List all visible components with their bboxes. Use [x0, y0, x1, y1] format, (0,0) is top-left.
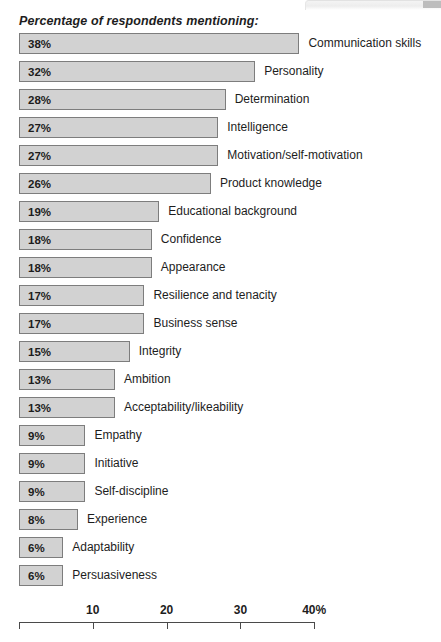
- bar-row: 6%Adaptability: [0, 537, 440, 565]
- bar-value-label: 18%: [28, 262, 51, 274]
- bar-row: 32%Personality: [0, 61, 440, 89]
- bar-row: 18%Confidence: [0, 229, 440, 257]
- bar-category-label: Adaptability: [72, 537, 134, 558]
- bar-row: 18%Appearance: [0, 257, 440, 285]
- bar-row: 26%Product knowledge: [0, 173, 440, 201]
- bar-value-label: 6%: [28, 542, 45, 554]
- bar-category-label: Integrity: [139, 341, 182, 362]
- bar-category-label: Determination: [235, 89, 310, 110]
- bar-value-label: 9%: [28, 430, 45, 442]
- bar: 9%: [19, 425, 85, 446]
- bar-value-label: 18%: [28, 234, 51, 246]
- bar-value-label: 9%: [28, 458, 45, 470]
- bar-category-label: Initiative: [94, 453, 138, 474]
- bar-category-label: Confidence: [161, 229, 222, 250]
- bar-category-label: Self-discipline: [94, 481, 168, 502]
- bar-category-label: Empathy: [94, 425, 141, 446]
- bar-category-label: Experience: [87, 509, 147, 530]
- bar: 13%: [19, 369, 115, 390]
- bar-category-label: Personality: [264, 61, 323, 82]
- x-axis-tick: [93, 622, 94, 629]
- chart-plot-area: 38%Communication skills32%Personality28%…: [0, 33, 440, 593]
- x-axis-tick-label: 10: [86, 603, 99, 617]
- bar-row: 9%Empathy: [0, 425, 440, 453]
- bar: 27%: [19, 145, 218, 166]
- bar-row: 15%Integrity: [0, 341, 440, 369]
- bar-value-label: 26%: [28, 178, 51, 190]
- bar: 9%: [19, 481, 85, 502]
- bar-value-label: 19%: [28, 206, 51, 218]
- bar-value-label: 27%: [28, 150, 51, 162]
- bar-row: 27%Motivation/self-motivation: [0, 145, 440, 173]
- bar-row: 19%Educational background: [0, 201, 440, 229]
- bar: 32%: [19, 61, 255, 82]
- bar-category-label: Intelligence: [227, 117, 288, 138]
- bar: 15%: [19, 341, 130, 362]
- x-axis-tick: [19, 622, 20, 629]
- bar: 8%: [19, 509, 78, 530]
- bar-value-label: 38%: [28, 38, 51, 50]
- bar-row: 13%Ambition: [0, 369, 440, 397]
- bar-value-label: 15%: [28, 346, 51, 358]
- bar-value-label: 8%: [28, 514, 45, 526]
- bar-row: 9%Self-discipline: [0, 481, 440, 509]
- bar-value-label: 17%: [28, 290, 51, 302]
- x-axis-tick-label: 20: [160, 603, 173, 617]
- bar-value-label: 13%: [28, 402, 51, 414]
- bar: 19%: [19, 201, 159, 222]
- bar: 27%: [19, 117, 218, 138]
- bar-category-label: Product knowledge: [220, 173, 322, 194]
- bar: 18%: [19, 257, 152, 278]
- bar-row: 28%Determination: [0, 89, 440, 117]
- bar: 9%: [19, 453, 85, 474]
- bar: 26%: [19, 173, 211, 194]
- x-axis-tick: [167, 622, 168, 629]
- bar-value-label: 27%: [28, 122, 51, 134]
- bar-row: 17%Business sense: [0, 313, 440, 341]
- bar-value-label: 13%: [28, 374, 51, 386]
- bar: 6%: [19, 565, 63, 586]
- bar-value-label: 9%: [28, 486, 45, 498]
- bar-category-label: Business sense: [153, 313, 237, 334]
- bar-row: 38%Communication skills: [0, 33, 440, 61]
- bar: 18%: [19, 229, 152, 250]
- bar-category-label: Ambition: [124, 369, 171, 390]
- bar-category-label: Appearance: [161, 257, 226, 278]
- bar-row: 13%Acceptability/likeability: [0, 397, 440, 425]
- bar-value-label: 6%: [28, 570, 45, 582]
- bar-value-label: 32%: [28, 66, 51, 78]
- bar-row: 17%Resilience and tenacity: [0, 285, 440, 313]
- bar-category-label: Educational background: [168, 201, 297, 222]
- bar-value-label: 17%: [28, 318, 51, 330]
- x-axis-tick-label: 40%: [302, 603, 326, 617]
- bar-row: 8%Experience: [0, 509, 440, 537]
- x-axis-tick: [314, 622, 315, 629]
- bar: 17%: [19, 313, 144, 334]
- bar: 38%: [19, 33, 299, 54]
- bar-row: 9%Initiative: [0, 453, 440, 481]
- x-axis-tick: [240, 622, 241, 629]
- x-axis-tick-label: 30: [234, 603, 247, 617]
- bar: 6%: [19, 537, 63, 558]
- bar-category-label: Persuasiveness: [72, 565, 157, 586]
- bar: 28%: [19, 89, 226, 110]
- bar-value-label: 28%: [28, 94, 51, 106]
- bar-category-label: Resilience and tenacity: [153, 285, 276, 306]
- bar-category-label: Acceptability/likeability: [124, 397, 243, 418]
- bar-category-label: Communication skills: [308, 33, 421, 54]
- bar: 13%: [19, 397, 115, 418]
- x-axis: 10203040%: [0, 598, 440, 638]
- bar-row: 27%Intelligence: [0, 117, 440, 145]
- bar: 17%: [19, 285, 144, 306]
- bar-row: 6%Persuasiveness: [0, 565, 440, 593]
- chart-title: Percentage of respondents mentioning:: [19, 14, 259, 28]
- bar-category-label: Motivation/self-motivation: [227, 145, 362, 166]
